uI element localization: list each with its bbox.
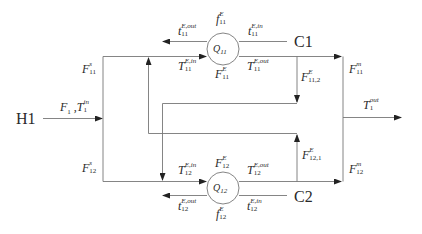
bypass-11-2-label: FE11,2 — [301, 71, 320, 84]
split-bottom-label: Fs12 — [82, 162, 96, 175]
q12-hot-flow-label: FE12 — [215, 157, 229, 170]
mixer-top-label: Fm11 — [349, 63, 363, 76]
q11-t-out-label: tE,out11 — [178, 25, 196, 38]
q12-t-in-label: tE,in12 — [247, 200, 262, 213]
mixer-bottom-label: Fm12 — [349, 163, 363, 176]
cold-stream-c2-label: C2 — [294, 189, 313, 205]
q11-T-in-label: TE,in11 — [178, 60, 196, 73]
q12-T-in-label: TE,in12 — [178, 164, 196, 177]
bypass-12-1-label: FE12,1 — [302, 149, 322, 162]
heat-exchanger-network-diagram — [0, 0, 422, 234]
hot-stream-label: H1 — [16, 111, 36, 127]
q12-t-out-label: tE,out12 — [178, 200, 196, 213]
split-top-label: Fs11 — [82, 63, 96, 76]
q12-T-out-label: TE,out12 — [247, 164, 269, 177]
q11-hot-flow-label: FE11 — [215, 68, 229, 81]
q11-T-out-label: TE,out11 — [247, 60, 269, 73]
q11-t-in-label: tE,in11 — [248, 25, 263, 38]
hot-outlet-label: Tout1 — [363, 99, 379, 112]
cold-stream-c1-label: C1 — [294, 34, 313, 50]
hot-inlet-label: F1 ,Tin1 — [60, 101, 89, 114]
q11-cold-flow-label: fE11 — [216, 13, 226, 26]
q12-cold-flow-label: fE12 — [216, 208, 226, 221]
exchanger-q12-label: Q12 — [213, 183, 227, 193]
exchanger-q11-label: Q11 — [213, 44, 227, 54]
